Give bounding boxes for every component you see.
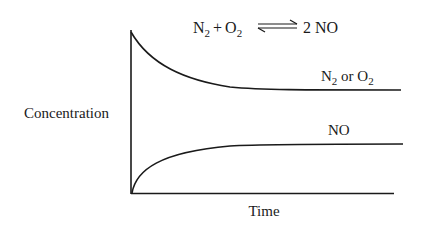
series-label-no: NO — [328, 122, 350, 138]
equilibrium-chart: N2+O2 2 NO N2 or O2 NO Concentration Tim… — [0, 0, 427, 226]
series-no-line — [132, 144, 403, 193]
chart-title: N2+O2 — [193, 19, 242, 39]
x-axis-label: Time — [248, 203, 279, 219]
chart-title-product: 2 NO — [303, 19, 338, 36]
y-axis-label: Concentration — [24, 105, 109, 121]
equilibrium-arrow-icon — [258, 20, 297, 32]
series-label-n2-o2: N2 or O2 — [321, 68, 374, 87]
